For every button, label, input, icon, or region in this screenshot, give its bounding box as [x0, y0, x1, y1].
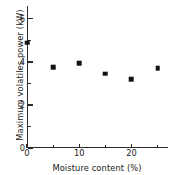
- y-tick-label: 6: [20, 14, 25, 24]
- x-tick-minor: [105, 145, 106, 148]
- data-point: [25, 40, 30, 45]
- data-point: [129, 77, 134, 82]
- x-tick-label: 20: [126, 148, 137, 158]
- y-tick-major: 4: [28, 61, 33, 62]
- plot-area: 0246 01020: [27, 6, 168, 148]
- x-tick-label: 0: [24, 148, 29, 158]
- x-axis-label: Moisture content (%): [27, 163, 167, 173]
- data-point: [51, 65, 56, 70]
- x-tick-minor: [53, 145, 54, 148]
- y-tick-minor: [28, 83, 31, 84]
- data-point: [103, 71, 108, 76]
- y-tick-minor: [28, 126, 31, 127]
- x-tick-minor: [157, 145, 158, 148]
- x-axis-line: [27, 147, 168, 148]
- x-tick-major: 0: [26, 144, 27, 149]
- x-tick-major: 20: [131, 144, 132, 149]
- data-point: [77, 61, 82, 66]
- scatter-chart-figure: Maximum volatiles power (kW) 0246 01020 …: [0, 0, 170, 175]
- y-tick-major: 2: [28, 104, 33, 105]
- y-tick-major: 6: [28, 18, 33, 19]
- x-tick-major: 10: [79, 144, 80, 149]
- y-tick-label: 4: [20, 57, 25, 67]
- y-tick-label: 2: [20, 100, 25, 110]
- data-point: [155, 66, 160, 71]
- x-tick-label: 10: [74, 148, 85, 158]
